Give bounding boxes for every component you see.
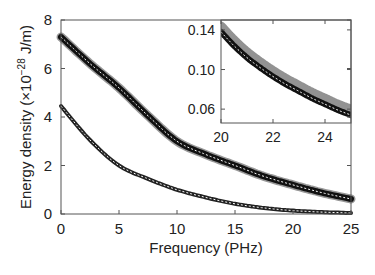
- x-tick-label: 5: [115, 220, 123, 237]
- x-axis-title: Frequency (PHz): [149, 239, 262, 256]
- y-tick-label: 0: [44, 205, 52, 222]
- inset-x-tick-label: 20: [213, 129, 229, 145]
- chart-canvas: 051015202502468Frequency (PHz)Energy den…: [0, 0, 375, 275]
- x-tick-label: 20: [285, 220, 302, 237]
- inset-x-tick-label: 22: [265, 129, 281, 145]
- inset-y-tick-label: 0.06: [188, 101, 215, 117]
- x-tick-label: 25: [343, 220, 360, 237]
- y-tick-label: 4: [44, 108, 52, 125]
- x-tick-label: 10: [169, 220, 186, 237]
- y-tick-label: 8: [44, 11, 52, 28]
- y-tick-label: 2: [44, 157, 52, 174]
- x-tick-label: 0: [57, 220, 65, 237]
- inset-y-tick-label: 0.10: [188, 62, 215, 78]
- x-tick-label: 15: [227, 220, 244, 237]
- inset-y-tick-label: 0.14: [188, 22, 215, 38]
- inset-x-tick-label: 24: [317, 129, 333, 145]
- inset-plot-curves: [221, 20, 351, 123]
- y-axis-title: Energy density (×10−28 J/m): [16, 25, 34, 209]
- y-tick-label: 6: [44, 60, 52, 77]
